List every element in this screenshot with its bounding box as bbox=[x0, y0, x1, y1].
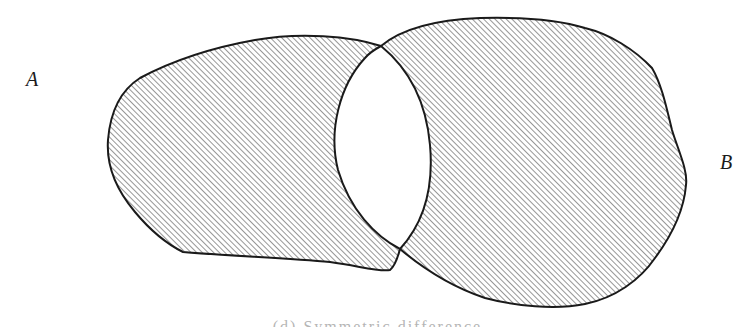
figure-caption: (d) Symmetric difference bbox=[0, 318, 755, 327]
set-b-label: B bbox=[720, 152, 732, 172]
set-a-label: A bbox=[26, 69, 38, 89]
set-diagram bbox=[0, 0, 755, 327]
